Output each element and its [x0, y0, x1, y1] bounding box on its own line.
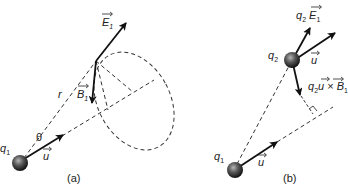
caption-a: (a) [67, 172, 80, 184]
magnetic-field-arrow [92, 61, 96, 103]
caption-b: (b) [283, 172, 296, 184]
velocity-axis-b [277, 107, 333, 142]
svg-text:u: u [311, 54, 317, 66]
label-u-q2: u [311, 51, 320, 66]
svg-text:u: u [43, 150, 49, 162]
svg-text:q2u × B1: q2u × B1 [308, 80, 348, 94]
label-q1: q1 [0, 142, 10, 156]
label-E1: E1 [102, 12, 113, 30]
charge-q1-sphere [12, 155, 28, 171]
magnetic-force-arrow [293, 64, 300, 95]
perpendicular-line [96, 61, 133, 92]
field-circle [78, 38, 190, 164]
electric-force-arrow [294, 28, 310, 57]
label-r: r [58, 88, 63, 100]
svg-text:E1: E1 [102, 16, 113, 30]
panel-a: q1 u θ r E1 B1 (a) [0, 12, 190, 184]
charge-q2-sphere [284, 52, 300, 68]
figure-canvas: q1 u θ r E1 B1 (a) [0, 0, 348, 188]
radius-line [24, 61, 96, 158]
label-u: u [43, 147, 52, 162]
panel-b: q2 q1 q2E1 u u q2u × B1 (b) [214, 5, 348, 184]
label-theta: θ [36, 131, 42, 143]
svg-text:u: u [258, 156, 264, 168]
label-q2E1: q2E1 [296, 5, 322, 23]
label-q1-b: q1 [214, 150, 224, 164]
force-perpendicular [301, 96, 313, 114]
svg-text:B1: B1 [77, 88, 88, 102]
label-q2: q2 [268, 49, 278, 63]
perpendicular-line-lower [96, 61, 108, 110]
separation-line [237, 66, 289, 164]
label-u-q1: u [258, 153, 267, 168]
label-magnetic-force: q2u × B1 [308, 77, 348, 94]
charge-q1-sphere-b [227, 162, 243, 178]
svg-text:q2E1: q2E1 [296, 9, 320, 23]
label-B1: B1 [77, 84, 89, 102]
